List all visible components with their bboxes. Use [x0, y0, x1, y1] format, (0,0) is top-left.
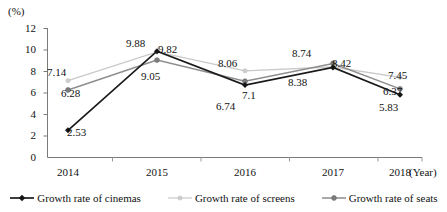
data-label-screens-2015: 9.82 — [158, 44, 177, 55]
legend-marker-diamond-icon — [9, 192, 35, 204]
legend-marker-circle-gray-icon — [321, 192, 347, 204]
legend-label-growth-rate-of-seats: Growth rate of seats — [349, 192, 438, 204]
data-label-seats-2014: 6.28 — [61, 88, 80, 99]
data-label-cinemas-2014: 2.53 — [67, 127, 86, 138]
data-label-seats-2016: 7.1 — [242, 90, 256, 101]
data-label-seats-2015: 9.05 — [141, 71, 160, 82]
data-label-screens-2014: 7.14 — [47, 67, 66, 78]
line-chart: (%) 12 10 8 6 4 2 0 2014 2015 2016 2017 … — [0, 0, 447, 212]
data-label-screens-2016: 8.06 — [218, 58, 237, 69]
legend-label-growth-rate-of-screens: Growth rate of screens — [195, 192, 295, 204]
y-axis-ticks — [44, 29, 48, 137]
data-label-cinemas-2017: 8.38 — [288, 77, 307, 88]
legend-item-growth-rate-of-seats[interactable]: Growth rate of seats — [321, 192, 438, 204]
data-label-screens-2018: 7.45 — [388, 70, 407, 81]
data-label-cinemas-2016: 6.74 — [216, 101, 235, 112]
data-label-cinemas-2018: 5.83 — [379, 102, 398, 113]
legend-item-growth-rate-of-cinemas[interactable]: Growth rate of cinemas — [9, 192, 141, 204]
chart-legend: Growth rate of cinemas Growth rate of sc… — [0, 188, 447, 208]
data-label-seats-2017: 8.74 — [292, 48, 311, 59]
legend-label-growth-rate-of-cinemas: Growth rate of cinemas — [37, 192, 141, 204]
data-label-seats-2018: 6.37 — [383, 86, 402, 97]
data-label-screens-2017: 8.42 — [332, 58, 351, 69]
x-axis-ticks — [113, 158, 423, 162]
legend-marker-circle-light-icon — [167, 192, 193, 204]
legend-item-growth-rate-of-screens[interactable]: Growth rate of screens — [167, 192, 295, 204]
data-label-cinemas-2015: 9.88 — [126, 38, 145, 49]
